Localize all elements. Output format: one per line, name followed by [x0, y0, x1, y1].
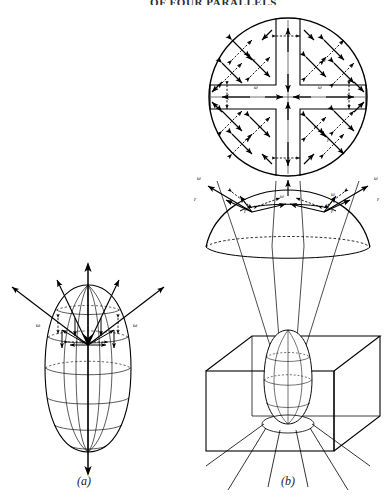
epsilon-label: ε	[377, 196, 380, 202]
omega-label: ω	[258, 123, 262, 129]
epsilon-label: ε	[331, 208, 334, 214]
epsilon-label: ε	[194, 196, 197, 202]
panel-a-group: ω ω	[12, 262, 164, 476]
dome-inner-arc	[240, 204, 336, 211]
panel-b-group: ε ε ω ω ω ω ε ε	[194, 18, 380, 490]
omega-label: ω	[133, 322, 137, 328]
omega-label: ω	[254, 84, 258, 90]
panel-b-dome: ω ε ω ε ω ω ε ε	[194, 175, 380, 258]
omega-label: ω	[374, 175, 378, 181]
omega-label: ω	[36, 322, 40, 328]
omega-label: ω	[318, 84, 322, 90]
panel-a-caption: (a)	[77, 474, 91, 489]
epsilon-label: ε	[324, 57, 327, 63]
dome-base-back	[206, 237, 370, 248]
omega-label: ω	[280, 193, 284, 199]
panel-b-caption: (b)	[281, 474, 295, 489]
box-ovoid	[262, 330, 314, 433]
omega-label: ω	[331, 191, 335, 197]
dome-base-front	[206, 247, 370, 258]
disk-labels: ε ε ω ω ω ω ε ε	[247, 57, 330, 143]
panel-b-disk: ε ε ω ω ω ω ε ε	[209, 18, 367, 176]
omega-label: ω	[197, 175, 201, 181]
figure-canvas: ω ω	[0, 0, 385, 497]
figure-root: OF FOUR PARALLELS	[0, 0, 385, 497]
panel-a-labels: ω ω	[36, 322, 137, 328]
dome-outline	[206, 190, 370, 247]
epsilon-label: ε	[247, 137, 250, 143]
omega-label: ω	[314, 123, 318, 129]
